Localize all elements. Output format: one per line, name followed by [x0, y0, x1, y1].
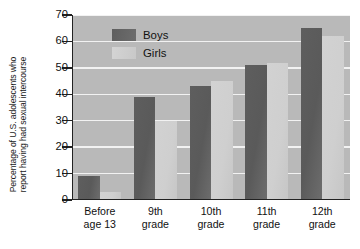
legend-item-girls: Girls	[112, 45, 168, 60]
bar-girls-10th-grade	[211, 81, 233, 200]
bar-girls-9th-grade	[155, 121, 177, 200]
x-axis-labels: Beforeage 139thgrade10thgrade11thgrade12…	[72, 205, 350, 245]
bar-girls-11th-grade	[267, 63, 289, 200]
legend-label-boys: Boys	[143, 29, 168, 41]
bar-chart: Percentage of U.S. adolescents who repor…	[0, 0, 360, 249]
x-axis-label-1: 9thgrade	[128, 205, 184, 230]
legend-item-boys: Boys	[112, 27, 168, 42]
x-axis-label-3: 11thgrade	[239, 205, 295, 230]
chart-legend: Boys Girls	[112, 27, 168, 60]
legend-swatch-boys-icon	[112, 29, 136, 41]
y-axis-tick-label: 40	[34, 87, 68, 99]
bar-girls-before-age-13	[100, 192, 122, 200]
y-axis-tick-label: 70	[34, 8, 68, 20]
bar-girls-12th-grade	[322, 36, 344, 200]
bar-boys-10th-grade	[190, 86, 212, 200]
y-axis-tick-label: 0	[34, 193, 68, 205]
legend-swatch-girls-icon	[112, 47, 136, 59]
x-axis-label-4: 12thgrade	[294, 205, 350, 230]
bar-boys-before-age-13	[78, 176, 100, 200]
bar-boys-9th-grade	[134, 97, 156, 200]
x-axis-label-0: Beforeage 13	[72, 205, 128, 230]
y-axis-tick-label: 30	[34, 114, 68, 126]
y-axis-tick-label: 20	[34, 140, 68, 152]
plot-area: Boys Girls	[72, 15, 350, 200]
y-axis-title-line-2: report having had sexual intercourse	[18, 57, 28, 193]
bar-boys-12th-grade	[301, 28, 323, 200]
y-axis-tick-label: 10	[34, 167, 68, 179]
y-axis-tick-label: 50	[34, 61, 68, 73]
x-axis-label-2: 10thgrade	[183, 205, 239, 230]
gridline	[72, 15, 350, 16]
y-axis-title: Percentage of U.S. adolescents who repor…	[0, 0, 36, 249]
bar-boys-11th-grade	[245, 65, 267, 200]
y-axis-tick-label: 60	[34, 34, 68, 46]
legend-label-girls: Girls	[143, 47, 166, 59]
y-axis-title-line-1: Percentage of U.S. adolescents who	[8, 57, 18, 193]
